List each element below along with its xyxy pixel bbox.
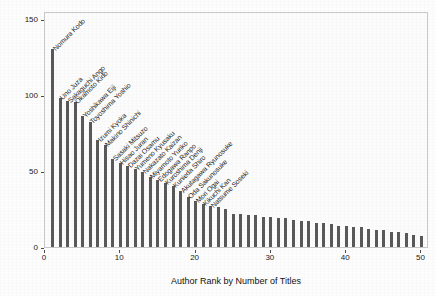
- bar: [134, 169, 137, 247]
- y-axis-title: Number of Titles: [2, 0, 14, 36]
- bar: [149, 177, 152, 247]
- bar: [269, 217, 272, 247]
- bar: [96, 140, 99, 247]
- bar: [292, 220, 295, 247]
- y-tick-label: 150: [25, 16, 38, 24]
- bar: [194, 201, 197, 247]
- bar: [164, 183, 167, 247]
- bar: [382, 230, 385, 247]
- bar-label: Nomura Kodo: [51, 17, 86, 52]
- bar: [209, 206, 212, 247]
- x-tick-label: 0: [34, 254, 54, 262]
- x-axis-title: Author Rank by Number of Titles: [44, 276, 428, 286]
- bar: [397, 232, 400, 247]
- bar: [360, 227, 363, 247]
- bar: [315, 223, 318, 247]
- bar: [337, 226, 340, 247]
- bar: [284, 218, 287, 247]
- x-tick-label: 40: [335, 254, 355, 262]
- bar: [254, 215, 257, 247]
- x-tick-label: 10: [109, 254, 129, 262]
- bar: [390, 232, 393, 247]
- x-axis: 01020304050: [44, 250, 428, 266]
- bar: [126, 166, 129, 247]
- plot-panel: Nomura KodoUno JuzaSakaguchi AngoOkamoto…: [44, 12, 428, 248]
- bar: [66, 101, 69, 247]
- bar: [156, 180, 159, 247]
- bar: [247, 215, 250, 247]
- bar: [367, 229, 370, 247]
- bar: [141, 172, 144, 247]
- bar: [81, 116, 84, 247]
- bar: [412, 235, 415, 247]
- bar: [217, 207, 220, 247]
- bar: [330, 224, 333, 247]
- bar: [51, 49, 54, 247]
- bar: [202, 204, 205, 247]
- bar: [300, 221, 303, 247]
- x-tick-label: 30: [260, 254, 280, 262]
- x-tick-label: 50: [410, 254, 430, 262]
- bar: [224, 209, 227, 247]
- bar: [352, 227, 355, 247]
- bar: [111, 159, 114, 247]
- x-tick-label: 20: [185, 254, 205, 262]
- y-tick-label: 100: [25, 92, 38, 100]
- bar: [307, 221, 310, 247]
- y-tick-mark: [41, 248, 44, 249]
- bar: [59, 98, 62, 247]
- bar: [345, 226, 348, 247]
- chart-figure: Number of Titles 050100150 Nomura KodoUn…: [0, 0, 436, 296]
- bar: [420, 236, 423, 247]
- bar: [262, 217, 265, 247]
- bar: [89, 122, 92, 247]
- bar: [187, 197, 190, 247]
- bar: [119, 163, 122, 247]
- bar: [172, 186, 175, 247]
- bar: [405, 233, 408, 247]
- y-tick-label: 50: [29, 168, 38, 176]
- bar: [74, 102, 77, 247]
- bar: [239, 214, 242, 247]
- plot-area: Nomura KodoUno JuzaSakaguchi AngoOkamoto…: [45, 13, 427, 247]
- bar: [277, 218, 280, 247]
- bar: [179, 191, 182, 247]
- bar: [375, 230, 378, 247]
- bar: [232, 214, 235, 247]
- y-tick-label: 0: [34, 244, 38, 252]
- bar: [104, 145, 107, 247]
- bar: [322, 223, 325, 247]
